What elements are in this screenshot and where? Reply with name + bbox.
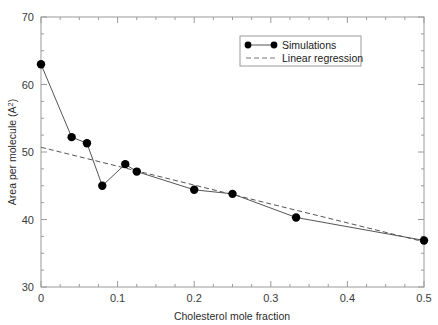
x-tick-label-0: 0 (38, 292, 44, 304)
data-point-4 (121, 160, 129, 168)
data-point-3 (98, 182, 106, 190)
data-point-7 (228, 190, 236, 198)
y-axis-minor-ticks (41, 34, 424, 270)
y-tick-label-2: 50 (22, 146, 34, 158)
chart-container: 00.10.20.30.40.5 3040506070 Cholesterol … (0, 0, 438, 325)
data-point-2 (83, 139, 91, 147)
data-point-8 (292, 213, 300, 221)
simulations-markers (37, 60, 428, 245)
x-tick-label-1: 0.1 (110, 292, 125, 304)
data-point-5 (133, 167, 141, 175)
legend-marker-left-icon (245, 42, 252, 49)
x-axis-tick-labels: 00.10.20.30.40.5 (38, 292, 432, 304)
legend-label-linear-regression: Linear regression (282, 52, 363, 64)
plot-frame (41, 17, 424, 287)
x-axis-title: Cholesterol mole fraction (174, 310, 290, 322)
chart-svg: 00.10.20.30.40.5 3040506070 Cholesterol … (0, 0, 438, 325)
data-point-9 (420, 236, 428, 244)
x-tick-label-5: 0.5 (416, 292, 431, 304)
y-axis-title: Area per molecule (A2) (6, 99, 19, 205)
data-point-6 (190, 186, 198, 194)
data-point-1 (67, 133, 75, 141)
y-axis-tick-labels: 3040506070 (22, 11, 34, 293)
simulations-line (41, 64, 424, 240)
y-tick-label-1: 40 (22, 214, 34, 226)
legend-marker-right-icon (271, 42, 278, 49)
x-tick-label-2: 0.2 (187, 292, 202, 304)
y-tick-label-0: 30 (22, 281, 34, 293)
legend-label-simulations: Simulations (282, 39, 336, 51)
axes-frame (41, 17, 424, 287)
x-tick-label-3: 0.3 (263, 292, 278, 304)
y-axis-ticks (41, 17, 424, 287)
legend: Simulations Linear regression (240, 36, 363, 66)
x-tick-label-4: 0.4 (340, 292, 355, 304)
x-axis-ticks (41, 17, 424, 287)
y-tick-label-4: 70 (22, 11, 34, 23)
data-point-0 (37, 60, 45, 68)
y-tick-label-3: 60 (22, 79, 34, 91)
